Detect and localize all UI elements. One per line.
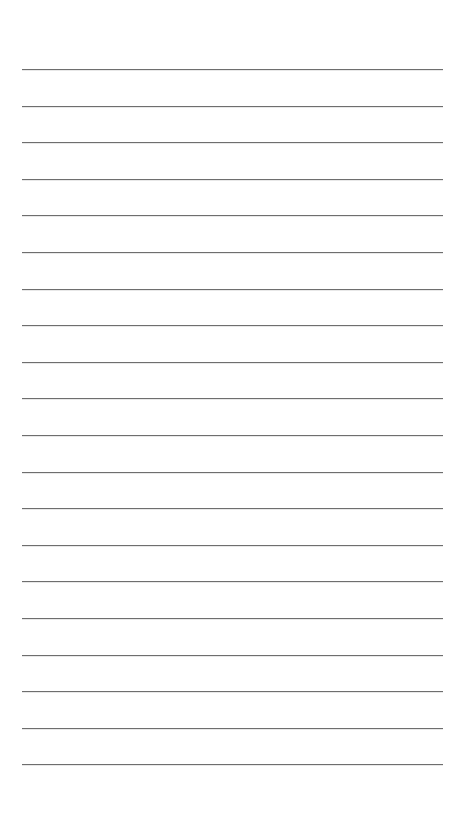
ruled-line: [22, 508, 443, 509]
ruled-line: [22, 179, 443, 180]
ruled-line: [22, 289, 443, 290]
ruled-line: [22, 252, 443, 253]
ruled-line: [22, 545, 443, 546]
ruled-line: [22, 472, 443, 473]
ruled-line: [22, 362, 443, 363]
ruled-line: [22, 69, 443, 70]
ruled-line: [22, 398, 443, 399]
ruled-line: [22, 106, 443, 107]
ruled-line: [22, 325, 443, 326]
ruled-line: [22, 764, 443, 765]
ruled-line: [22, 618, 443, 619]
ruled-line: [22, 215, 443, 216]
ruled-line: [22, 691, 443, 692]
ruled-line: [22, 142, 443, 143]
ruled-line: [22, 655, 443, 656]
ruled-line: [22, 435, 443, 436]
ruled-line: [22, 581, 443, 582]
ruled-line: [22, 728, 443, 729]
